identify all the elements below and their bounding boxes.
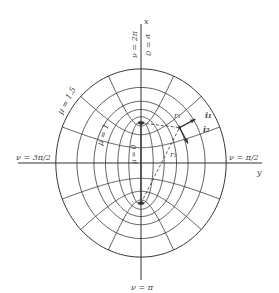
- mu-1.5-label: μ = 1.5: [56, 85, 78, 115]
- r1-label: r₁: [174, 111, 181, 120]
- nu-2pi-label: ν = 2π: [130, 30, 139, 58]
- grid-line: [62, 178, 141, 199]
- i1-label: i₁: [205, 110, 212, 120]
- focus-marker-2: [138, 202, 144, 205]
- nu-pi-label: ν = π: [131, 283, 154, 292]
- grid-line: [141, 76, 174, 126]
- y-axis-label: y: [256, 168, 262, 177]
- r2-label: r₂: [170, 150, 177, 159]
- r2-line: [141, 128, 180, 203]
- x-axis-label: x: [144, 17, 149, 26]
- prolate-spheroidal-diagram: x y ν = 2π ν = 0 ν = π/2 ν = 3π/2 ν = π …: [0, 0, 279, 293]
- mu-0-label: μ = 0: [130, 144, 138, 164]
- i2-label: i₂: [203, 124, 210, 134]
- nu-pi-half-label: ν = π/2: [229, 153, 259, 162]
- point-marker: [178, 126, 181, 129]
- focus-marker-1: [138, 122, 144, 125]
- grid-line: [108, 200, 141, 250]
- point-vectors: [138, 119, 195, 204]
- grid-line: [141, 178, 220, 199]
- nu-3pi-half-label: ν = 3π/2: [16, 153, 51, 162]
- nu-0-label: ν = 0: [144, 34, 153, 56]
- grid-line: [141, 200, 174, 250]
- grid-line: [108, 76, 141, 126]
